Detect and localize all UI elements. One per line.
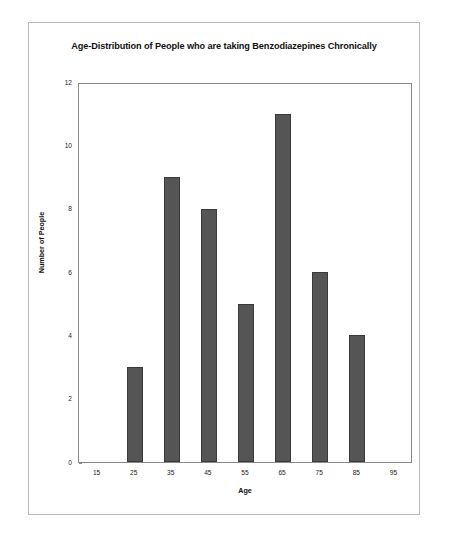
x-tick-label-95: 95 — [378, 470, 408, 477]
y-tick-label-8: 8 — [50, 206, 72, 213]
chart-figure: Age-Distribution of People who are takin… — [0, 0, 451, 541]
x-tick-label-35: 35 — [156, 470, 186, 477]
bar-25 — [127, 367, 143, 462]
bar-35 — [164, 177, 180, 462]
x-tick-label-15: 15 — [82, 470, 112, 477]
bar-45 — [201, 209, 217, 462]
y-tick-label-10: 10 — [50, 143, 72, 150]
x-tick-label-65: 65 — [267, 470, 297, 477]
bar-75 — [312, 272, 328, 462]
x-tick-label-55: 55 — [230, 470, 260, 477]
x-tick-label-45: 45 — [193, 470, 223, 477]
x-tick-label-25: 25 — [119, 470, 149, 477]
y-tick-0 — [79, 463, 82, 464]
bar-65 — [275, 114, 291, 462]
y-axis-title: Number of People — [37, 193, 46, 293]
bar-series — [79, 84, 411, 462]
y-tick-label-4: 4 — [50, 333, 72, 340]
plot-area — [78, 83, 412, 463]
chart-title: Age-Distribution of People who are takin… — [28, 41, 420, 51]
bar-85 — [349, 335, 365, 462]
y-tick-label-12: 12 — [50, 80, 72, 87]
plot-inner — [79, 84, 411, 462]
bar-55 — [238, 304, 254, 462]
x-tick-label-75: 75 — [304, 470, 334, 477]
x-axis-title: Age — [78, 486, 412, 495]
y-tick-label-2: 2 — [50, 396, 72, 403]
y-tick-label-0: 0 — [50, 460, 72, 467]
x-tick-label-85: 85 — [341, 470, 371, 477]
y-tick-label-6: 6 — [50, 270, 72, 277]
